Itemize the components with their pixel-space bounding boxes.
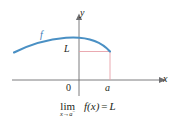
origin-label: 0 bbox=[66, 83, 71, 93]
limit-value-label-L: L bbox=[64, 44, 70, 54]
function-curve bbox=[14, 37, 110, 52]
limit-operator: limx→a− bbox=[60, 100, 75, 112]
limit-result-value: L bbox=[110, 100, 116, 112]
approach-point-label-a: a bbox=[105, 83, 110, 93]
limit-subscript: x→a− bbox=[60, 109, 75, 117]
limit-subscript-side: − bbox=[73, 109, 76, 114]
x-axis-label: x bbox=[163, 74, 167, 84]
limit-figure: y x f L a 0 limx→a−f(x)=L bbox=[0, 0, 176, 128]
y-axis-label: y bbox=[80, 8, 84, 18]
curve-label-f: f bbox=[40, 30, 43, 40]
limit-function-expression: f(x) bbox=[84, 100, 99, 112]
limit-equals-sign: = bbox=[101, 100, 107, 112]
figure-caption: limx→a−f(x)=L bbox=[0, 100, 176, 112]
